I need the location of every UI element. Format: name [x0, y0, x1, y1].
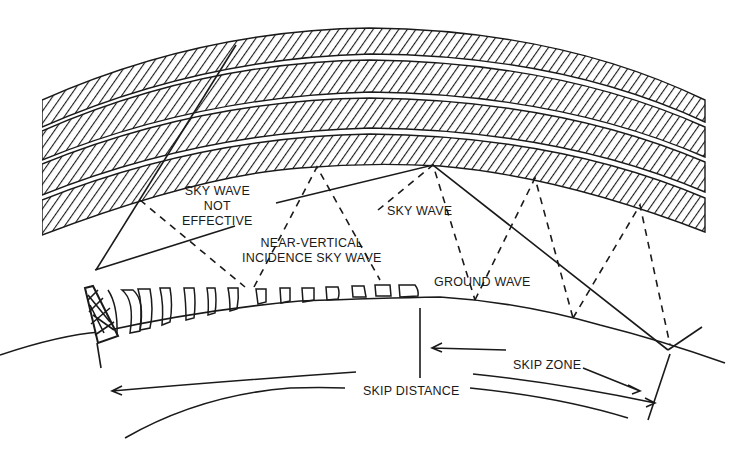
label-sky-wave: SKY WAVE [387, 204, 452, 219]
earth-under-curve [125, 388, 345, 439]
label-sky-wave-not-effective: SKY WAVE NOT EFFECTIVE [182, 184, 253, 229]
label-line: NOT [182, 199, 253, 214]
label-nvis: NEAR-VERTICAL INCIDENCE SKY WAVE [242, 236, 382, 266]
not-effective-ray [95, 226, 235, 270]
label-ground-wave: GROUND WAVE [434, 275, 531, 290]
ionosphere-layers [42, 28, 705, 235]
skip-markers [112, 308, 670, 420]
skip-distance-arrow-left [112, 372, 356, 395]
label-line: SKY WAVE [182, 184, 253, 199]
skip-end-tick [648, 354, 670, 420]
label-line: INCIDENCE SKY WAVE [242, 251, 382, 266]
label-skip-zone: SKIP ZONE [513, 358, 581, 373]
label-line: EFFECTIVE [182, 214, 253, 229]
reflected-continuation [668, 327, 702, 350]
label-line: NEAR-VERTICAL [242, 236, 382, 251]
skip-zone-arrow-left [432, 343, 506, 352]
ground-wave-fronts [108, 285, 418, 335]
label-skip-distance: SKIP DISTANCE [363, 384, 460, 399]
